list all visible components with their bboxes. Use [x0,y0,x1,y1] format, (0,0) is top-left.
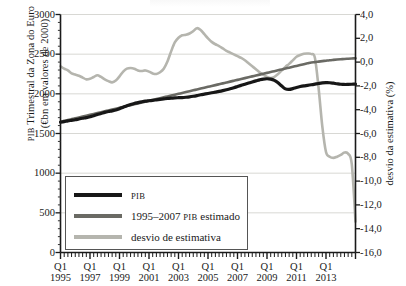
legend-item: 1995–2007 PIB estimado [74,207,240,225]
series-line-0 [61,79,356,122]
legend-item: PIB [74,186,145,204]
legend-label: PIB [131,189,145,201]
legend-item: desvio de estimativa [74,228,221,246]
legend-swatch [74,214,122,217]
legend-label: 1995–2007 PIB estimado [131,210,240,222]
chart-figure: PIB Trimestral da Zona do Euro (€bn em v… [0,0,406,286]
legend-swatch [74,193,122,197]
chart-legend: PIB1995–2007 PIB estimadodesvio de estim… [65,176,248,250]
legend-swatch [74,235,122,238]
legend-label: desvio de estimativa [131,231,221,243]
